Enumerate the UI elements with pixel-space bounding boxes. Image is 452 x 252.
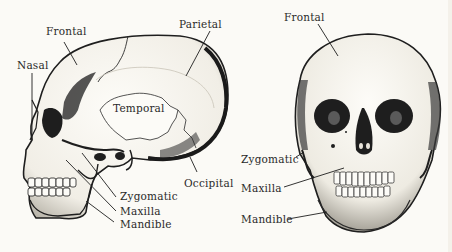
label-frontal-mandible: Mandible [241, 214, 293, 225]
label-lateral-temporal: Temporal [113, 103, 165, 114]
label-lateral-parietal: Parietal [179, 19, 222, 30]
label-lateral-zygomatic: Zygomatic [120, 191, 178, 202]
label-lateral-maxilla: Maxilla [120, 206, 161, 217]
label-lateral-mandible: Mandible [120, 219, 172, 230]
label-lateral-frontal: Frontal [46, 26, 87, 37]
skull-illustrations [0, 0, 452, 252]
label-frontal-maxilla: Maxilla [241, 183, 282, 194]
frontal-skull [296, 34, 441, 232]
label-lateral-nasal: Nasal [17, 60, 48, 71]
label-lateral-occipital: Occipital [184, 178, 233, 189]
skull-diagram: Frontal Parietal Nasal Temporal Occipita… [0, 0, 452, 252]
label-frontal-zygomatic: Zygomatic [241, 154, 299, 165]
label-frontal-frontal: Frontal [284, 12, 325, 23]
